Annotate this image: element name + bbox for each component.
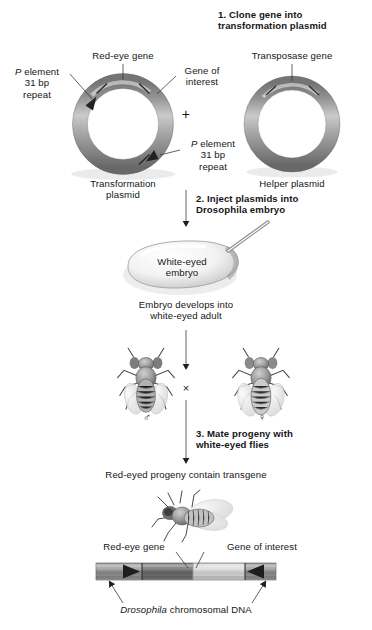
fly-female bbox=[233, 348, 290, 418]
caption-chromosomal-dna: Drosophila chromosomal DNA bbox=[96, 604, 276, 615]
transgenesis-figure: 1. Clone gene into transformation plasmi… bbox=[0, 0, 372, 630]
label-dna-gene-of-interest: Gene of interest bbox=[206, 541, 318, 552]
chromosomal-dna-rest: chromosomal DNA bbox=[167, 604, 252, 615]
step-3-label: 3. Mate progeny with white-eyed flies bbox=[196, 428, 372, 451]
dna-caption-arrows bbox=[111, 584, 264, 603]
label-dna-red-eye-gene: Red-eye gene bbox=[82, 541, 186, 552]
plus-operator: + bbox=[176, 109, 196, 120]
step-1-label: 1. Clone gene into transformation plasmi… bbox=[218, 9, 372, 32]
label-embryo-develops: Embryo develops into white-eyed adult bbox=[101, 299, 271, 322]
injection-needle bbox=[228, 222, 268, 251]
male-symbol: ♂ bbox=[137, 412, 157, 423]
label-white-eyed-embryo: White-eyed embryo bbox=[140, 256, 224, 279]
caption-helper-plasmid: Helper plasmid bbox=[245, 178, 339, 189]
drosophila-italic: Drosophila bbox=[120, 604, 167, 615]
label-gene-of-interest: Gene of interest bbox=[172, 65, 232, 88]
label-p-element-left: P element 31 bp repeat bbox=[4, 66, 70, 100]
label-transposase-gene: Transposase gene bbox=[240, 50, 344, 61]
p-rest-right: element 31 bp repeat bbox=[197, 138, 235, 172]
caption-progeny: Red-eyed progeny contain transgene bbox=[76, 469, 296, 480]
fly-male bbox=[118, 348, 175, 416]
female-symbol: ♀ bbox=[252, 412, 272, 423]
step-2-label: 2. Inject plasmids into Drosophila embry… bbox=[196, 193, 372, 216]
chromosomal-dna-bar bbox=[96, 552, 276, 603]
helper-plasmid bbox=[244, 76, 340, 178]
fly-progeny bbox=[152, 490, 234, 542]
p-rest-left: element 31 bp repeat bbox=[21, 66, 59, 100]
plasmid-segment-dividers bbox=[97, 84, 150, 165]
caption-transformation-plasmid: Transformation plasmid bbox=[73, 178, 173, 201]
label-p-element-right: P element 31 bp repeat bbox=[182, 138, 244, 172]
cross-symbol: × bbox=[176, 383, 196, 394]
label-red-eye-gene: Red-eye gene bbox=[73, 50, 173, 61]
transformation-plasmid bbox=[71, 74, 175, 181]
